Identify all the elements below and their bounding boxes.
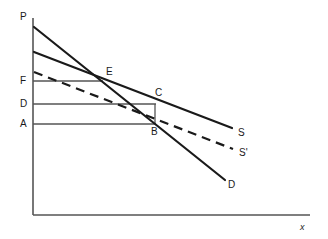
x-axis-label: x <box>300 222 305 232</box>
curve-label-S-prime: S' <box>239 148 248 158</box>
point-label-E: E <box>106 67 113 77</box>
supply-curve <box>34 52 232 128</box>
curve-label-S: S <box>238 128 245 138</box>
supply-shifted-curve <box>34 72 233 149</box>
point-label-B: B <box>151 127 158 137</box>
supply-demand-diagram: P x F D A E C B S S' D <box>0 0 328 239</box>
price-label-A: A <box>20 119 27 129</box>
price-label-F: F <box>20 76 26 86</box>
diagram-canvas <box>0 0 328 239</box>
y-axis-label: P <box>20 12 27 22</box>
curve-label-D: D <box>228 180 235 190</box>
price-label-D: D <box>20 99 27 109</box>
point-label-C: C <box>155 88 162 98</box>
